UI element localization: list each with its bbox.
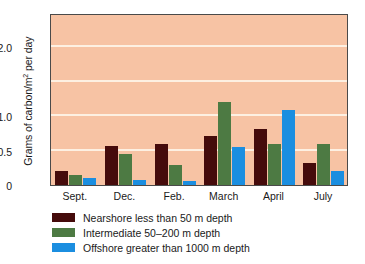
y-tick-label: 1.0 [0, 111, 12, 123]
plot-area [50, 14, 348, 186]
x-tick-label-july: July [314, 190, 333, 202]
bar-nearshore [254, 129, 267, 185]
bar-group [150, 15, 200, 185]
bar-nearshore [204, 136, 217, 185]
y-axis-title-suffix: per day [22, 37, 34, 74]
bar-nearshore [303, 163, 316, 185]
y-axis-title-prefix: Grams of carbon/m [22, 78, 34, 166]
bar-intermediate [69, 175, 82, 185]
bar-nearshore [55, 171, 68, 185]
chart-figure: Grams of carbon/m2 per day 0 0.5 1.0 2.0 [0, 0, 365, 264]
legend-label: Offshore greater than 1000 m depth [83, 242, 250, 254]
x-tick-label-feb: Feb. [164, 190, 185, 202]
legend-swatch-icon [52, 213, 75, 222]
x-tick-label-april: April [263, 190, 284, 202]
y-tick-label: 0 [0, 180, 12, 192]
legend-label: Intermediate 50–200 m depth [83, 227, 220, 239]
x-tick-label-dec: Dec. [114, 190, 136, 202]
bar-group [250, 15, 300, 185]
bar-intermediate [317, 144, 330, 185]
bar-intermediate [169, 165, 182, 185]
legend-label: Nearshore less than 50 m depth [83, 212, 232, 224]
bar-nearshore [105, 146, 118, 185]
legend-item-nearshore: Nearshore less than 50 m depth [52, 210, 250, 225]
y-tick-label: 0.5 [0, 146, 12, 158]
bar-group [51, 15, 101, 185]
bar-offshore [232, 147, 245, 185]
x-tick-label-march: March [209, 190, 238, 202]
bar-offshore [133, 180, 146, 185]
legend-swatch-icon [52, 228, 75, 237]
bar-nearshore [155, 144, 168, 185]
y-axis-title: Grams of carbon/m2 per day [22, 11, 35, 191]
legend-swatch-icon [52, 243, 75, 252]
y-axis-title-superscript: 2 [22, 74, 29, 78]
x-tick-label-sept: Sept. [63, 190, 88, 202]
bar-group [299, 15, 349, 185]
bar-group [200, 15, 250, 185]
legend-item-intermediate: Intermediate 50–200 m depth [52, 225, 250, 240]
bar-offshore [331, 171, 344, 185]
bar-group [101, 15, 151, 185]
bar-intermediate [268, 144, 281, 185]
bar-intermediate [119, 154, 132, 185]
bar-intermediate [218, 102, 231, 185]
y-tick-label: 2.0 [0, 42, 12, 54]
bar-offshore [282, 110, 295, 185]
legend-item-offshore: Offshore greater than 1000 m depth [52, 240, 250, 255]
bar-offshore [83, 178, 96, 185]
chart-legend: Nearshore less than 50 m depth Intermedi… [52, 210, 250, 255]
bar-offshore [183, 181, 196, 185]
